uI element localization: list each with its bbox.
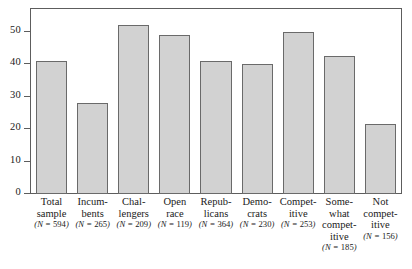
bar xyxy=(324,56,355,194)
bars-container xyxy=(31,9,401,194)
bar xyxy=(77,103,108,194)
y-axis: 01020304050 xyxy=(0,0,30,202)
bar-chart: 01020304050 Total sample(N = 594)Incum- … xyxy=(0,0,412,269)
bar xyxy=(36,61,67,194)
y-tick-label: 40 xyxy=(10,56,21,67)
y-tick-label: 30 xyxy=(10,89,21,100)
y-tick-label: 0 xyxy=(16,186,21,197)
x-axis-category-label: Not compet- itive(N = 156) xyxy=(356,196,405,242)
y-tick-mark xyxy=(24,96,30,97)
bar xyxy=(242,64,273,194)
y-tick-label: 20 xyxy=(10,121,21,132)
y-tick-label: 50 xyxy=(10,24,21,35)
y-tick-mark xyxy=(24,31,30,32)
y-tick-label: 10 xyxy=(10,154,21,165)
y-tick-mark xyxy=(24,161,30,162)
category-sample-size: (N = 156) xyxy=(356,231,405,243)
category-sample-size: (N = 185) xyxy=(315,242,364,254)
bar xyxy=(283,32,314,194)
bar xyxy=(159,35,190,194)
bar xyxy=(200,61,231,194)
y-tick-mark xyxy=(24,63,30,64)
category-name: Not compet- itive xyxy=(356,196,405,231)
x-axis-labels: Total sample(N = 594)Incum- bents(N = 26… xyxy=(31,196,401,268)
y-tick-mark xyxy=(24,193,30,194)
bar xyxy=(365,124,396,194)
bar xyxy=(118,25,149,194)
y-tick-mark xyxy=(24,128,30,129)
